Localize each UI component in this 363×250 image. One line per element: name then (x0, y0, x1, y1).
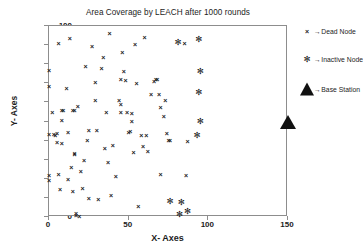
data-point-dead-node: × (104, 109, 108, 116)
data-point-dead-node: × (144, 131, 148, 138)
data-point-dead-node: × (114, 172, 118, 179)
data-point-dead-node: × (146, 147, 150, 154)
legend-label: Dead Node (321, 28, 356, 35)
data-point-dead-node: × (107, 29, 111, 36)
data-point-dead-node: × (119, 108, 123, 115)
data-point-inactive-node: ✻ (178, 197, 185, 206)
arrow-right-icon: → (314, 28, 321, 35)
plot-area: ××××××××××××××××××××××××××××××××××××××××… (48, 25, 287, 216)
data-point-inactive-node: ✻ (167, 197, 174, 206)
data-point-dead-node: × (158, 104, 162, 111)
data-point-dead-node: × (130, 110, 134, 117)
data-point-inactive-node: ✻ (184, 207, 191, 216)
x-tick-mark (207, 216, 208, 220)
data-point-dead-node: × (95, 127, 99, 134)
data-point-dead-node: × (71, 188, 75, 195)
x-tick-label: 150 (272, 220, 302, 229)
data-point-dead-node: × (66, 129, 70, 136)
data-point-dead-node: × (109, 191, 113, 198)
x-axis-label: X- Axes (48, 233, 287, 243)
data-point-inactive-node: ✻ (174, 38, 181, 47)
data-point-dead-node: × (47, 83, 51, 90)
data-point-dead-node: × (130, 117, 134, 124)
legend-label: Inactive Node (321, 56, 363, 63)
data-point-inactive-node: ✻ (176, 210, 183, 219)
data-point-dead-node: × (143, 33, 147, 40)
data-point-dead-node: × (149, 90, 153, 97)
data-point-dead-node: × (106, 158, 110, 165)
data-point-dead-node: × (61, 107, 65, 114)
data-point-dead-node: × (72, 150, 76, 157)
data-point-dead-node: × (82, 157, 86, 164)
data-point-dead-node: × (155, 75, 159, 82)
data-point-dead-node: × (60, 139, 64, 146)
data-point-inactive-node: ✻ (197, 116, 204, 125)
data-point-inactive-node: ✻ (195, 88, 202, 97)
data-point-dead-node: × (79, 168, 83, 175)
data-point-dead-node: × (158, 171, 162, 178)
data-point-dead-node: × (55, 138, 59, 145)
data-point-dead-node: × (85, 136, 89, 143)
data-point-dead-node: × (60, 116, 64, 123)
legend-item-dead-node: ×→Dead Node (300, 28, 356, 35)
data-point-dead-node: × (47, 66, 51, 73)
data-point-inactive-node: ✻ (197, 67, 204, 76)
data-point-dead-node: × (55, 129, 59, 136)
data-point-dead-node: × (125, 108, 129, 115)
data-point-dead-node: × (50, 108, 54, 115)
data-point-dead-node: × (186, 137, 190, 144)
data-point-dead-node: × (111, 142, 115, 149)
data-point-dead-node: × (87, 127, 91, 134)
data-point-dead-node: × (80, 185, 84, 192)
chart-title: Area Coverage by LEACH after 1000 rounds (48, 8, 288, 17)
data-point-dead-node: × (76, 103, 80, 110)
data-point-dead-node: × (69, 164, 73, 171)
data-point-dead-node: × (128, 128, 132, 135)
data-point-dead-node: × (157, 90, 161, 97)
data-point-dead-node: × (93, 97, 97, 104)
data-point-dead-node: × (101, 53, 105, 60)
base-station-marker (280, 115, 296, 129)
arrow-right-icon: → (314, 86, 321, 93)
data-point-dead-node: × (168, 137, 172, 144)
data-point-dead-node: × (57, 40, 61, 47)
x-tick-label: 100 (192, 220, 222, 229)
data-point-dead-node: × (96, 196, 100, 203)
data-point-dead-node: × (103, 145, 107, 152)
x-tick-mark (287, 216, 288, 220)
inactive-marker-icon: ✻ (300, 55, 314, 64)
data-point-dead-node: × (122, 67, 126, 74)
data-point-dead-node: × (100, 65, 104, 72)
data-point-dead-node: × (93, 79, 97, 86)
data-point-inactive-node: ✻ (195, 35, 202, 44)
data-point-dead-node: × (119, 76, 123, 83)
data-point-dead-node: × (133, 41, 137, 48)
data-point-dead-node: × (182, 40, 186, 47)
data-point-dead-node: × (163, 96, 167, 103)
data-point-dead-node: × (119, 101, 123, 108)
x-tick-label: 50 (113, 220, 143, 229)
data-point-dead-node: × (135, 80, 139, 87)
data-point-dead-node: × (90, 43, 94, 50)
data-point-dead-node: × (66, 175, 70, 182)
arrow-right-icon: → (314, 56, 321, 63)
x-tick-mark (48, 216, 49, 220)
data-point-dead-node: × (131, 149, 135, 156)
data-point-dead-node: × (87, 194, 91, 201)
data-point-dead-node: × (123, 77, 127, 84)
data-points-layer: ××××××××××××××××××××××××××××××××××××××××… (49, 26, 286, 215)
x-tick-label: 0 (33, 220, 63, 229)
data-point-dead-node: × (184, 171, 188, 178)
data-point-dead-node: × (47, 130, 51, 137)
data-point-dead-node: × (162, 112, 166, 119)
dead-marker-icon: × (300, 28, 314, 35)
legend-item-base-station: →Base Station (300, 82, 360, 96)
data-point-dead-node: × (68, 35, 72, 42)
x-tick-mark (128, 216, 129, 220)
triangle-marker-icon (300, 82, 314, 96)
data-point-dead-node: × (136, 203, 140, 210)
legend-label: Base Station (321, 86, 360, 93)
data-point-dead-node: × (84, 63, 88, 70)
data-point-dead-node: × (77, 213, 81, 220)
data-point-dead-node: × (139, 131, 143, 138)
